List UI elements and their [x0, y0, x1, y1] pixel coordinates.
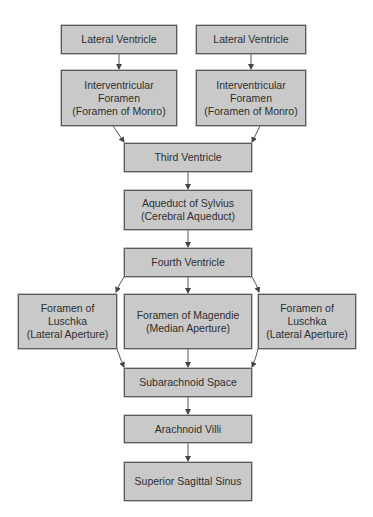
node-lateral-ventricle-right: Lateral Ventricle: [196, 25, 306, 54]
node-foramen-of-luschka-left: Foramen of Luschka (Lateral Aperture): [18, 294, 117, 349]
node-fourth-ventricle: Fourth Ventricle: [124, 248, 252, 277]
node-lateral-ventricle-left: Lateral Ventricle: [61, 25, 177, 54]
node-interventricular-foramen-left: Interventricular Foramen (Foramen of Mon…: [61, 70, 177, 126]
node-subarachnoid-space: Subarachnoid Space: [124, 368, 252, 397]
node-third-ventricle: Third Ventricle: [124, 143, 252, 172]
node-aqueduct-of-sylvius: Aqueduct of Sylvius (Cerebral Aqueduct): [124, 190, 252, 230]
node-interventricular-foramen-right: Interventricular Foramen (Foramen of Mon…: [196, 70, 306, 126]
node-foramen-of-magendie: Foramen of Magendie (Median Aperture): [124, 294, 252, 349]
node-superior-sagittal-sinus: Superior Sagittal Sinus: [124, 462, 252, 501]
node-foramen-of-luschka-right: Foramen of Luschka (Lateral Aperture): [258, 294, 356, 349]
node-arachnoid-villi: Arachnoid Villi: [124, 415, 252, 443]
